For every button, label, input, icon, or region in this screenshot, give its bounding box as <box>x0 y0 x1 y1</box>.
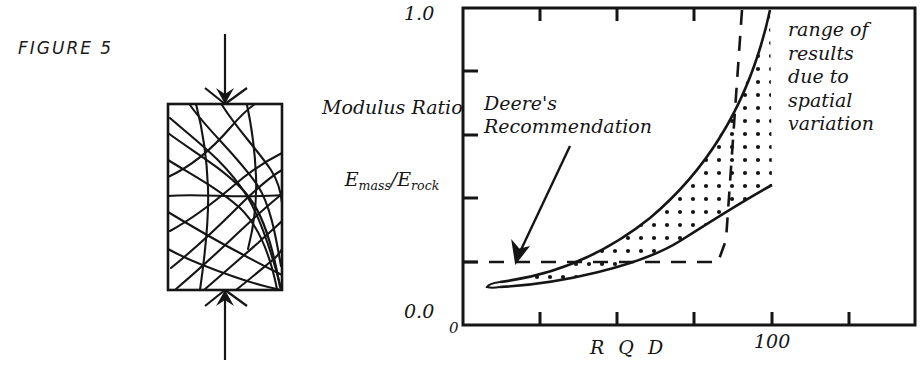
y-axis-units-label: Emass/Erock <box>318 168 466 193</box>
y-axis-max-label: 1.0 <box>404 2 434 24</box>
x-axis-origin-label: 0 <box>449 320 459 337</box>
deere-annotation-arrow-icon <box>513 146 570 262</box>
deere-recommendation-annotation: Deere's Recommendation <box>484 92 652 138</box>
range-of-results-annotation: range of results due to spatial variatio… <box>788 18 874 136</box>
load-arrow-bottom-icon <box>205 290 247 360</box>
load-arrow-top-icon <box>205 34 247 104</box>
curve-left-tail <box>487 282 500 288</box>
y-axis-ticks <box>463 71 478 262</box>
fracture-network <box>168 104 282 290</box>
y-axis-min-label: 0.0 <box>404 300 434 322</box>
y-axis-title: Modulus Ratio <box>322 96 462 118</box>
x-axis-title: R Q D <box>590 336 667 358</box>
x-axis-tick-label-100: 100 <box>754 330 790 352</box>
figure-canvas: FIGURE 5 <box>0 0 923 370</box>
x-axis-ticks <box>540 312 849 325</box>
x-axis-top-ticks <box>540 8 694 21</box>
